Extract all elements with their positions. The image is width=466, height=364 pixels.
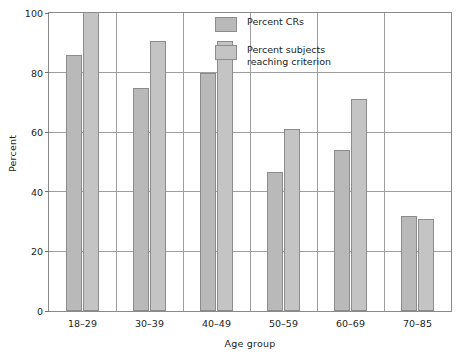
y-axis-tick-mark — [45, 191, 49, 192]
gridline-vertical — [116, 13, 117, 311]
y-axis-tick-label: 100 — [25, 8, 43, 19]
bar-percent-crs — [66, 55, 82, 311]
bar-percent-crs — [133, 88, 149, 312]
y-axis-tick-mark — [45, 251, 49, 252]
y-axis-tick-label: 40 — [31, 186, 43, 197]
x-axis-tick-label: 30–39 — [135, 318, 164, 329]
legend-swatch-percent-crs — [215, 17, 237, 32]
y-axis-tick-mark — [45, 13, 49, 14]
y-axis-tick-label: 80 — [31, 67, 43, 78]
y-axis-tick-mark — [45, 132, 49, 133]
y-axis-tick-mark — [45, 72, 49, 73]
y-axis-title: Percent — [7, 124, 18, 184]
legend-entry-percent-crs: Percent CRs — [215, 16, 304, 32]
x-axis-title: Age group — [48, 338, 452, 349]
legend-label-percent-crs: Percent CRs — [247, 16, 304, 28]
legend-swatch-percent-subjects — [215, 45, 237, 60]
bar-percent-crs — [267, 172, 283, 311]
bar-chart-figure: Percent Age group 02040608010018–2930–39… — [0, 0, 466, 364]
bar-percent-crs — [334, 150, 350, 311]
legend-entry-percent-subjects: Percent subjects reaching criterion — [215, 44, 331, 67]
x-axis-tick-label: 50–59 — [269, 318, 298, 329]
legend-label-percent-subjects: Percent subjects reaching criterion — [247, 44, 331, 67]
bar-percent-subjects — [351, 99, 367, 311]
bar-percent-subjects — [150, 41, 166, 311]
y-axis-tick-mark — [45, 311, 49, 312]
y-axis-tick-label: 0 — [37, 306, 43, 317]
bar-percent-subjects — [83, 13, 99, 311]
y-axis-tick-label: 20 — [31, 246, 43, 257]
x-axis-tick-label: 60–69 — [336, 318, 365, 329]
x-axis-tick-label: 70–85 — [403, 318, 432, 329]
y-axis-tick-label: 60 — [31, 127, 43, 138]
x-axis-tick-label: 18–29 — [68, 318, 97, 329]
gridline-vertical — [384, 13, 385, 311]
bar-percent-subjects — [418, 219, 434, 311]
gridline-vertical — [183, 13, 184, 311]
x-axis-tick-label: 40–49 — [202, 318, 231, 329]
bar-percent-subjects — [284, 129, 300, 311]
bar-percent-subjects — [217, 41, 233, 311]
bar-percent-crs — [401, 216, 417, 311]
bar-percent-crs — [200, 73, 216, 311]
